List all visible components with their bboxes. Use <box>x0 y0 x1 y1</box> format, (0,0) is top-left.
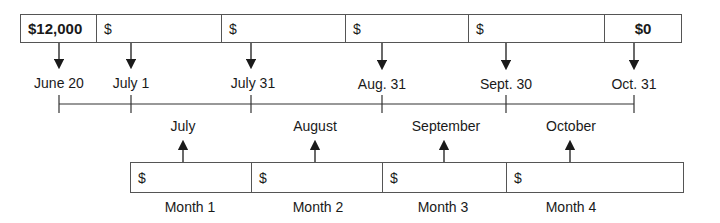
date-label: Oct. 31 <box>611 76 656 92</box>
month-index-label: Month 4 <box>546 199 597 215</box>
monthly-cell-3[interactable]: $ <box>383 163 507 192</box>
date-label: July 1 <box>113 75 150 91</box>
month-label: August <box>293 118 337 134</box>
balance-row: $12,000 $ $ $ $ $0 <box>20 14 682 43</box>
date-label: Aug. 31 <box>358 76 406 92</box>
month-index-label: Month 2 <box>293 199 344 215</box>
monthly-cell-2[interactable]: $ <box>252 163 383 192</box>
balance-cell-start[interactable]: $12,000 <box>21 15 97 42</box>
balance-cell-1[interactable]: $ <box>97 15 222 42</box>
balance-cell-3[interactable]: $ <box>346 15 469 42</box>
month-index-label: Month 3 <box>418 199 469 215</box>
monthly-cell-4[interactable]: $ <box>507 163 683 192</box>
balance-cell-end[interactable]: $0 <box>605 15 681 42</box>
balance-cell-2[interactable]: $ <box>222 15 346 42</box>
monthly-row: $ $ $ $ <box>130 162 684 193</box>
balance-cell-4[interactable]: $ <box>469 15 605 42</box>
up-arrows <box>183 145 570 162</box>
month-label: October <box>546 118 596 134</box>
month-label: September <box>412 118 480 134</box>
timeline <box>59 95 634 113</box>
down-arrows <box>59 42 634 65</box>
month-label: July <box>171 118 196 134</box>
date-label: Sept. 30 <box>480 76 532 92</box>
date-label: July 31 <box>231 75 275 91</box>
monthly-cell-1[interactable]: $ <box>131 163 252 192</box>
month-index-label: Month 1 <box>165 199 216 215</box>
date-label: June 20 <box>34 75 84 91</box>
